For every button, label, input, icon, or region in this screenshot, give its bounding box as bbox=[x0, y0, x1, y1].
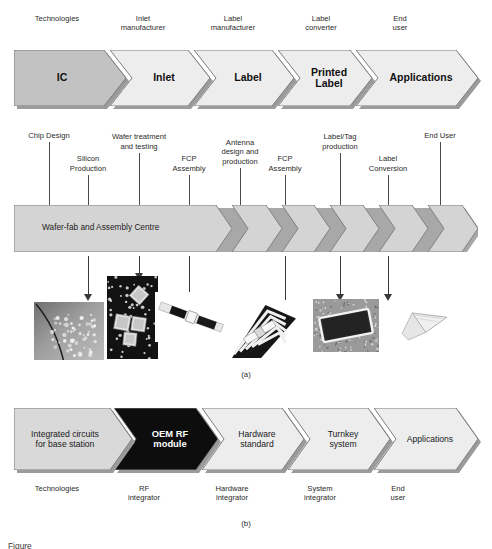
process-label-8: End User bbox=[397, 131, 483, 140]
caption-a: (a) bbox=[0, 370, 492, 379]
antenna-label-photo bbox=[228, 300, 300, 362]
b-stage-chevron-label-2: Hardware standard bbox=[238, 429, 275, 450]
leader-line-0 bbox=[49, 142, 50, 205]
b-stage-chevron-0[interactable]: Integrated circuits for base station bbox=[14, 408, 132, 470]
b-stage-chevron-label-4: Applications bbox=[407, 434, 453, 445]
process-label-1: Silicon Production bbox=[45, 154, 131, 173]
part-a-role-label-2: Label manufacturer bbox=[190, 14, 276, 33]
leader-line-1 bbox=[88, 175, 89, 205]
stage-chevron-label-3: Printed Label bbox=[311, 67, 347, 90]
wafer-fab-band: Wafer-fab and Assembly Centre bbox=[14, 205, 478, 252]
leader-line-7 bbox=[388, 175, 389, 205]
part-b-stage-chain: Integrated circuits for base station OEM… bbox=[14, 408, 478, 470]
photo-arrow-4 bbox=[336, 256, 345, 301]
part-a-role-label-4: End user bbox=[370, 14, 430, 33]
flip-chip-array-photo bbox=[107, 276, 158, 359]
stage-chevron-label-0: IC bbox=[57, 72, 68, 84]
part-b-role-label-0: Technologies bbox=[14, 484, 100, 493]
process-label-0: Chip Design bbox=[6, 131, 92, 140]
photo-arrow-0 bbox=[84, 256, 93, 301]
part-b-role-label-2: Hardware integrator bbox=[190, 484, 274, 503]
figure-number-note: Figure bbox=[8, 541, 32, 549]
stage-chevron-label-1: Inlet bbox=[153, 72, 175, 84]
wafer-fab-band-label: Wafer-fab and Assembly Centre bbox=[42, 222, 159, 232]
application-tag-photo bbox=[396, 300, 458, 354]
b-stage-chevron-label-0: Integrated circuits for base station bbox=[31, 429, 99, 450]
process-label-5: FCP Assembly bbox=[242, 154, 328, 173]
stage-chevron-4[interactable]: Applications bbox=[356, 50, 478, 106]
arrow-stem bbox=[189, 256, 190, 294]
part-b-role-label-4: End user bbox=[368, 484, 428, 503]
leader-line-2 bbox=[139, 153, 140, 205]
process-label-6: Label/Tag production bbox=[297, 132, 383, 151]
photo-arrow-5 bbox=[384, 256, 393, 301]
chevron-fill bbox=[14, 50, 126, 106]
leader-line-3 bbox=[189, 175, 190, 205]
part-a-role-label-3: Label converter bbox=[278, 14, 364, 33]
arrow-head bbox=[84, 294, 92, 301]
printed-label-photo bbox=[313, 299, 379, 352]
stage-chevron-label-4: Applications bbox=[389, 72, 452, 84]
process-label-2: Wafer treatment and testing bbox=[96, 132, 182, 151]
leader-line-5 bbox=[285, 175, 286, 205]
part-b-role-label-1: RF integrator bbox=[104, 484, 184, 503]
stage-chevron-label-2: Label bbox=[234, 72, 261, 84]
caption-b: (b) bbox=[0, 519, 492, 528]
leader-line-8 bbox=[440, 142, 441, 205]
arrow-stem bbox=[88, 256, 89, 294]
figure-supply-chain-diagram: TechnologiesInlet manufacturerLabel manu… bbox=[0, 0, 492, 549]
part-b-role-label-3: System integrator bbox=[278, 484, 362, 503]
arrow-stem bbox=[139, 256, 140, 273]
process-label-7: Label Conversion bbox=[345, 154, 431, 173]
silicon-wafer-photo bbox=[34, 302, 104, 360]
arrow-head bbox=[384, 294, 392, 301]
stage-chevron-0[interactable]: IC bbox=[14, 50, 126, 106]
inlet-strip-photo bbox=[155, 292, 227, 342]
part-a-role-label-0: Technologies bbox=[14, 14, 100, 23]
arrow-stem bbox=[388, 256, 389, 294]
b-stage-chevron-label-3: Turnkey system bbox=[328, 429, 359, 450]
leader-line-4 bbox=[240, 168, 241, 205]
b-stage-chevron-label-1: OEM RF module bbox=[152, 429, 188, 450]
part-a-stage-chain: IC Inlet Label Printed Label Application… bbox=[14, 50, 478, 106]
part-a-role-label-1: Inlet manufacturer bbox=[100, 14, 186, 33]
arrow-stem bbox=[340, 256, 341, 294]
leader-line-6 bbox=[340, 153, 341, 205]
